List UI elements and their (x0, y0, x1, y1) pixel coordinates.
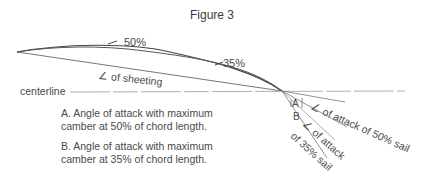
camber-35-label: 35% (223, 57, 245, 69)
legend-a-line2: camber at 50% of chord length. (61, 120, 213, 133)
centerline-label: centerline (20, 85, 66, 97)
legend-item-a: A. Angle of attack with maximum camber a… (61, 107, 213, 133)
centerline-line (70, 91, 405, 92)
angle-b-label: B (293, 111, 300, 122)
legend-item-b: B. Angle of attack with maximum camber a… (61, 140, 213, 166)
camber-50-label: 50% (124, 36, 146, 48)
angle-a-label: A (292, 98, 299, 109)
legend-b-line1: B. Angle of attack with maximum (61, 140, 213, 153)
tick-50 (108, 41, 117, 44)
legend-b-line2: camber at 35% of chord length. (61, 153, 213, 166)
legend-a-line1: A. Angle of attack with maximum (61, 107, 213, 120)
